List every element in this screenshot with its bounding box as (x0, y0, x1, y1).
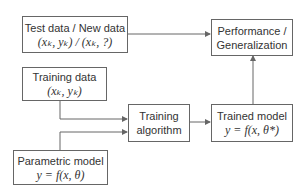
edge-training-data-to-algorithm (60, 100, 127, 119)
node-math: (xₖ, yₖ) / (xₖ, ?) (38, 35, 112, 49)
node-label: Training (139, 109, 178, 123)
node-label: Test data / New data (25, 21, 125, 35)
node-label: Performance / (217, 24, 286, 38)
node-parametric-model: Parametric model y = f(x, θ) (13, 150, 108, 185)
node-training-data: Training data (xₖ, yₖ) (22, 67, 107, 101)
node-trained-model: Trained model y = f(x, θ*) (211, 104, 293, 142)
node-training-algorithm: Training algorithm (128, 104, 190, 142)
node-performance: Performance / Generalization (211, 19, 293, 56)
node-test-data: Test data / New data (xₖ, yₖ) / (xₖ, ?) (22, 16, 128, 53)
node-label-2: algorithm (136, 123, 181, 137)
node-math: y = f(x, θ) (37, 168, 85, 182)
node-label: Training data (33, 70, 97, 84)
node-label: Parametric model (17, 154, 103, 168)
node-label-2: Generalization (217, 38, 288, 52)
edge-parametric-to-algorithm (60, 132, 127, 150)
node-math: (xₖ, yₖ) (47, 84, 82, 98)
node-math: y = f(x, θ*) (225, 123, 279, 137)
node-label: Trained model (217, 109, 287, 123)
